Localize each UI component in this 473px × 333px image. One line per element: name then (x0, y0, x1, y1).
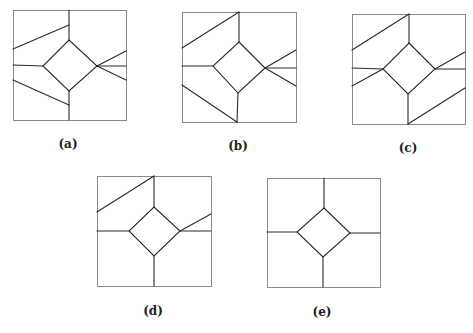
panel-c: (c) (352, 14, 466, 155)
edge-line (408, 88, 465, 124)
panel-e: (e) (267, 178, 381, 319)
center-diamond (213, 42, 265, 93)
figure-canvas: (a) (b) (c) (d) (e) (0, 0, 473, 333)
panel-b: (b) (182, 12, 297, 153)
edge-line (352, 68, 383, 69)
partition-edges (182, 12, 296, 122)
partition-edges (352, 14, 465, 124)
edge-line (13, 65, 43, 66)
center-diamond (129, 207, 180, 256)
edge-line (97, 51, 126, 66)
panel-label: (d) (143, 304, 163, 318)
center-diamond (43, 40, 97, 91)
panel-label: (a) (58, 137, 77, 151)
edge-line (13, 25, 69, 49)
edge-line (352, 14, 409, 50)
edge-line (13, 80, 69, 105)
edge-line (97, 66, 126, 80)
center-diamond (383, 43, 435, 94)
center-diamond (297, 208, 350, 257)
edge-line (97, 176, 154, 212)
panel-label: (c) (399, 141, 418, 155)
edge-line (435, 52, 465, 69)
partition-edges (13, 10, 126, 120)
edge-line (182, 12, 239, 48)
edge-line (265, 68, 296, 86)
panel-d: (d) (97, 176, 212, 318)
partition-edges (267, 178, 380, 287)
partition-edges (97, 176, 211, 286)
edge-line (180, 214, 211, 231)
panel-a: (a) (13, 10, 127, 151)
edge-line (352, 69, 383, 86)
edge-line (182, 85, 237, 122)
panel-label: (b) (228, 139, 248, 153)
panel-label: (e) (313, 305, 332, 319)
edge-line (237, 93, 238, 122)
edge-line (265, 50, 296, 68)
